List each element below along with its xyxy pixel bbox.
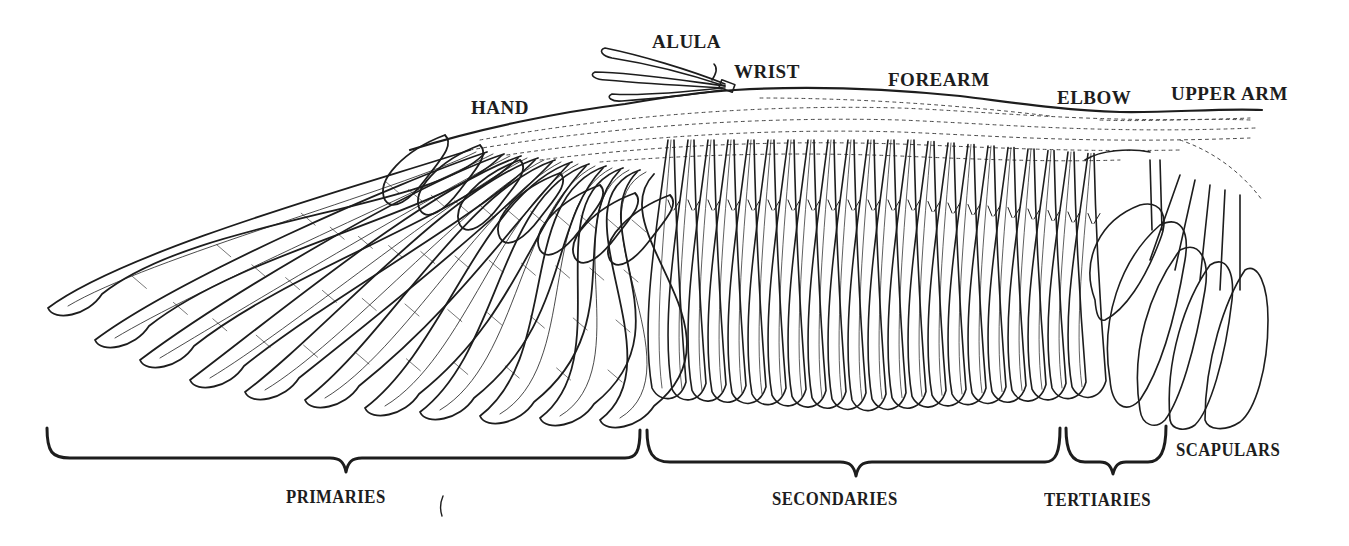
alula-feathers [592,48,735,101]
label-scapulars: SCAPULARS [1176,440,1280,459]
label-wrist: WRIST [734,62,800,81]
label-tertiaries: TERTIARIES [1044,490,1151,509]
label-primaries: PRIMARIES [286,487,386,506]
primaries-bracket [47,428,640,472]
stray-mark [441,496,443,516]
label-elbow: ELBOW [1057,88,1131,107]
wing-illustration [0,0,1349,546]
brackets [47,426,1166,476]
label-upper-arm: UPPER ARM [1171,84,1288,103]
label-secondaries: SECONDARIES [772,489,898,508]
tertiaries-bracket [1066,426,1166,474]
secondaries-bracket [647,428,1060,476]
primary-feathers [48,135,687,428]
label-alula: ALULA [652,32,721,51]
secondary-feathers [648,140,1106,411]
label-hand: HAND [471,98,529,117]
label-forearm: FOREARM [888,70,990,89]
wing-diagram: ALULA WRIST FOREARM HAND ELBOW UPPER ARM… [0,0,1349,546]
leading-edge [410,88,1262,150]
tertiary-scapular-feathers [1085,150,1268,429]
